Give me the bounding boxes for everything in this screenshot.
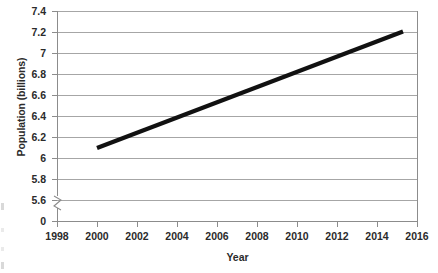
- population-line-chart: 7.4 7.2 7 6.8 6.6 6.4 6.2 6 5.8 5.6 0 19…: [0, 0, 438, 273]
- x-tick-label-1998: 1998: [37, 230, 77, 242]
- population-trend-line: [97, 32, 403, 149]
- x-tick-label-2010: 2010: [277, 230, 317, 242]
- x-tick-label-2008: 2008: [237, 230, 277, 242]
- y-tick-label-5.6: 5.6: [6, 194, 46, 206]
- axis-break-zigzag: [54, 196, 61, 210]
- x-axis-ticks: [58, 222, 418, 227]
- x-tick-label-2002: 2002: [117, 230, 157, 242]
- gridlines: [57, 12, 418, 201]
- y-axis-ticks: [52, 12, 57, 222]
- x-axis-title: Year: [57, 251, 418, 263]
- x-tick-label-2012: 2012: [317, 230, 357, 242]
- x-tick-label-2014: 2014: [357, 230, 397, 242]
- x-tick-label-2004: 2004: [157, 230, 197, 242]
- y-axis-title: Population (billions): [15, 37, 27, 177]
- y-tick-label-zero: 0: [6, 215, 46, 227]
- y-tick-label-7.4: 7.4: [6, 5, 46, 17]
- x-tick-label-2016: 2016: [397, 230, 437, 242]
- x-tick-label-2000: 2000: [77, 230, 117, 242]
- x-tick-label-2006: 2006: [197, 230, 237, 242]
